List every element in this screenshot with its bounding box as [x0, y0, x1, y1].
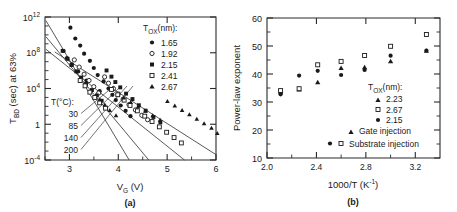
filled-circle-icon [376, 118, 380, 122]
panel-a-annotation-title: T(°C): [51, 97, 74, 107]
svg-text:10-4: 10-4 [24, 154, 40, 166]
panel-b-legend-label-1: 2.67 [386, 105, 403, 115]
filled-circle-icon [150, 40, 154, 44]
panel-b-y-ticklabels: 10 20 30 40 50 60 [252, 14, 262, 164]
panel-b-legend-item-2.23: 2.23 [375, 94, 402, 104]
panel-b-injection-legend-substrate: Substrate injection [328, 139, 419, 149]
panel-a-ytick-2-exp: 4 [36, 82, 40, 89]
panel-a-legend-label-1: 1.92 [161, 49, 178, 59]
panel-a-annotation-value-0: 30 [69, 109, 79, 119]
panel-b-xtick-2: 2.8 [360, 162, 372, 172]
panel-a-legend-item-2.15: 2.15 [150, 60, 178, 70]
panel-a-x-ticklabels: 3 4 5 6 [67, 164, 219, 174]
panel-a-xtick-2: 5 [165, 164, 170, 174]
panel-b-ytick-3: 40 [252, 70, 262, 80]
panel-b-injection-label-1: Substrate injection [349, 139, 419, 149]
panel-b-ytick-4: 50 [252, 42, 262, 52]
panel-a-xtick-3: 6 [213, 164, 218, 174]
panel-b-ytick-1: 20 [252, 126, 262, 136]
panel-a-legend-item-2.67: 2.67 [149, 82, 177, 92]
panel-b-xtick-0: 2.0 [261, 162, 273, 172]
panel-b-ytick-2: 30 [252, 98, 262, 108]
panel-a-y-ticklabels: 1012 108 104 1 10-4 [23, 11, 41, 166]
svg-text:1012: 1012 [23, 11, 41, 23]
panel-a-annotation-value-3: 200 [64, 145, 78, 155]
panel-b-label: (b) [347, 197, 359, 207]
panel-a-data-markers [61, 26, 220, 145]
panel-b-data-markers [278, 33, 429, 97]
panel-a-legend: TOX(nm): 1.65 1.92 2.15 2.41 [143, 23, 178, 92]
panel-b-series-2.67 [279, 33, 429, 93]
panel-a-legend-label-4: 2.67 [161, 82, 178, 92]
filled-triangle-icon [348, 130, 353, 135]
panel-b-y-axis-label: Power-law exponent [231, 45, 242, 131]
panel-a-legend-title: TOX(nm): [143, 23, 177, 35]
panel-b-legend-label-2: 2.15 [386, 115, 403, 125]
panel-a-ytick-0-base: 10 [23, 13, 33, 23]
panel-a-legend-item-1.65: 1.65 [150, 38, 178, 48]
filled-triangle-icon [149, 84, 154, 89]
open-circle-icon [150, 51, 154, 55]
panel-a-ytick-4-base: 10 [24, 156, 34, 166]
panel-b-legend-item-2.15: 2.15 [376, 115, 403, 125]
panel-b-ytick-5: 60 [252, 14, 262, 24]
panel-a-ytick-1-exp: 8 [36, 46, 40, 53]
open-square-icon [376, 108, 380, 112]
panel-a-legend-label-0: 1.65 [161, 38, 178, 48]
figure-container: 1012 108 104 1 10-4 3 4 5 6 TBD (sec) at… [0, 0, 457, 212]
panel-b-injection-label-0: Gate injection [359, 126, 411, 136]
panel-b-legend-label-0: 2.23 [386, 94, 403, 104]
panel-a-x-axis-label: VG (V) [117, 181, 144, 194]
figure-svg: 1012 108 104 1 10-4 3 4 5 6 TBD (sec) at… [0, 0, 457, 212]
panel-b-x-ticklabels: 2.0 2.4 2.8 3.2 [261, 162, 421, 172]
filled-triangle-icon [375, 98, 380, 103]
panel-a-ytick-0-exp: 12 [33, 11, 41, 18]
svg-text:108: 108 [26, 46, 40, 58]
panel-b-legend-item-2.67: 2.67 [376, 105, 403, 115]
panel-b-x-axis-label: 1000/T (K-1) [328, 178, 379, 190]
panel-a-ytick-3: 1 [35, 120, 40, 130]
panel-b-y-ticks [267, 18, 440, 158]
panel-a-temperature-annotation: T(°C): 30 85 140 200 [51, 86, 133, 155]
panel-a: 1012 108 104 1 10-4 3 4 5 6 TBD (sec) at… [7, 11, 220, 209]
filled-circle-icon [328, 141, 332, 145]
panel-a-ytick-1-base: 10 [26, 48, 36, 58]
panel-b-xtick-3: 3.2 [409, 162, 421, 172]
panel-a-xtick-1: 4 [116, 164, 121, 174]
panel-b: 10 20 30 40 50 60 2.0 2.4 2.8 3.2 Power-… [231, 14, 440, 208]
panel-a-ytick-4-exp: -4 [34, 154, 40, 161]
panel-a-ytick-2-base: 10 [26, 84, 36, 94]
panel-b-legend: TOX(nm): 2.23 2.67 2.15 Gate injection [328, 82, 419, 149]
open-square-icon [339, 142, 343, 146]
panel-a-legend-label-3: 2.41 [161, 71, 178, 81]
panel-b-xtick-1: 2.4 [311, 162, 323, 172]
panel-a-label: (a) [125, 198, 136, 208]
panel-a-annotation-value-2: 140 [64, 133, 78, 143]
panel-a-y-axis-label: TBD (sec) at 63% [7, 53, 20, 124]
panel-b-injection-legend-gate: Gate injection [348, 126, 411, 136]
svg-text:104: 104 [26, 82, 40, 94]
panel-b-legend-title: TOX(nm): [368, 82, 402, 94]
panel-a-legend-item-2.41: 2.41 [150, 71, 178, 81]
panel-a-xtick-0: 3 [67, 164, 72, 174]
panel-a-legend-item-1.92: 1.92 [150, 49, 178, 59]
panel-a-annotation-value-1: 85 [69, 121, 79, 131]
open-square-icon [150, 74, 154, 78]
panel-b-axes-frame [267, 18, 440, 158]
panel-a-legend-label-2: 2.15 [161, 60, 178, 70]
filled-square-icon [150, 63, 154, 67]
